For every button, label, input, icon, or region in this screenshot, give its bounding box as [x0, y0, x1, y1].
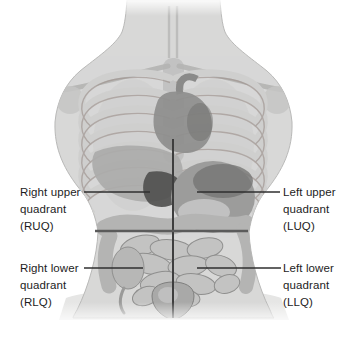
label-line: quadrant [20, 201, 81, 218]
label-line: (LLQ) [283, 294, 334, 311]
label-line: quadrant [283, 201, 336, 218]
label-line: (RUQ) [20, 218, 81, 235]
label-line: (LUQ) [283, 218, 336, 235]
label-line: quadrant [283, 277, 334, 294]
label-line: Left upper [283, 184, 336, 201]
label-right-lower-quadrant: Right lower quadrant (RLQ) [20, 260, 79, 311]
label-left-lower-quadrant: Left lower quadrant (LLQ) [283, 260, 334, 311]
heart-shadow [187, 103, 213, 141]
bladder-highlight [158, 287, 178, 303]
descending-colon [243, 230, 250, 287]
label-line: Right lower [20, 260, 79, 277]
abdominal-quadrants-figure: Right upper quadrant (RUQ) Left upper qu… [0, 0, 348, 339]
stomach-shadow [193, 164, 253, 198]
ascending-colon [105, 236, 110, 286]
label-line: Right upper [20, 184, 81, 201]
label-right-upper-quadrant: Right upper quadrant (RUQ) [20, 184, 81, 235]
label-left-upper-quadrant: Left upper quadrant (LUQ) [283, 184, 336, 235]
label-line: (RLQ) [20, 294, 79, 311]
transverse-colon [104, 222, 246, 228]
label-line: Left lower [283, 260, 334, 277]
label-line: quadrant [20, 277, 79, 294]
